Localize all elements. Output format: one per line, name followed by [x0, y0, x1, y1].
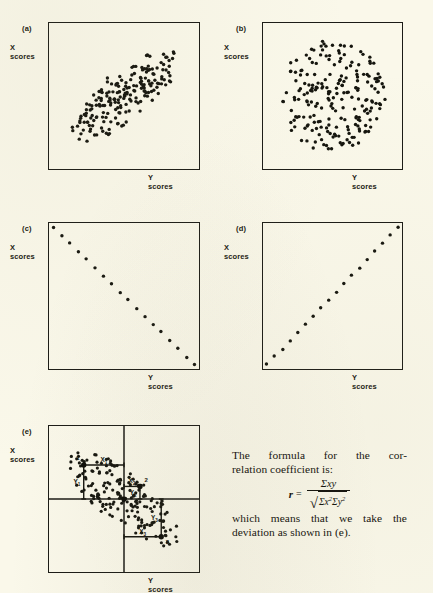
data-point: [149, 507, 152, 510]
data-point: [108, 132, 111, 135]
scatter-plot: 1X1Y12X2Y23X3Y3: [48, 425, 200, 573]
data-point: [356, 75, 359, 78]
data-point: [165, 55, 168, 58]
word: we: [339, 511, 352, 525]
annotated-data-point: [81, 462, 86, 467]
data-point: [328, 73, 331, 76]
data-point: [321, 40, 324, 43]
data-point: [109, 101, 112, 104]
data-point: [77, 250, 80, 253]
data-point: [118, 482, 121, 485]
data-point: [136, 510, 139, 513]
data-point: [153, 79, 156, 82]
data-point: [69, 467, 72, 470]
data-point: [99, 99, 102, 102]
data-point: [129, 99, 132, 102]
data-point: [383, 98, 386, 101]
data-point: [95, 461, 98, 464]
data-point: [95, 116, 98, 119]
data-point: [292, 119, 295, 122]
data-point: [79, 132, 82, 135]
data-point: [168, 79, 171, 82]
data-point: [373, 87, 376, 90]
data-point: [150, 90, 153, 93]
data-point: [310, 89, 313, 92]
data-point: [359, 50, 362, 53]
panel-tag: (d): [236, 224, 246, 233]
data-point: [125, 92, 128, 95]
data-point: [149, 84, 152, 87]
data-point: [311, 129, 314, 132]
data-point: [306, 73, 309, 76]
data-point: [147, 91, 150, 94]
data-point: [338, 51, 341, 54]
data-point: [71, 126, 74, 129]
data-point: [337, 82, 340, 85]
data-point: [108, 98, 111, 101]
data-point: [375, 77, 378, 80]
denominator-term-a: Σx: [319, 497, 329, 507]
data-point: [330, 147, 333, 150]
word: take: [363, 511, 382, 525]
data-point: [145, 505, 148, 508]
data-point: [103, 490, 106, 493]
data-point: [108, 482, 111, 485]
data-point: [60, 234, 63, 237]
data-point: [302, 115, 305, 118]
data-point: [308, 115, 311, 118]
scanned-page: (a)X scoresY scores(b)X scoresY scores(c…: [0, 0, 433, 593]
data-point: [265, 362, 268, 365]
data-point: [143, 315, 146, 318]
data-point: [281, 348, 284, 351]
data-point: [353, 107, 356, 110]
data-point: [68, 241, 71, 244]
data-point: [327, 92, 330, 95]
data-point: [137, 516, 140, 519]
y-axis-label: X scores: [10, 44, 35, 61]
data-point: [382, 85, 385, 88]
data-point: [90, 484, 93, 487]
data-point-group: [71, 50, 176, 143]
data-point: [335, 87, 338, 90]
y-axis-label: X scores: [224, 244, 249, 261]
data-point: [138, 500, 141, 503]
data-point: [305, 139, 308, 142]
data-point: [368, 118, 371, 121]
data-point: [134, 500, 137, 503]
data-point: [113, 97, 116, 100]
data-point: [91, 470, 94, 473]
data-point: [350, 96, 353, 99]
data-point: [119, 106, 122, 109]
x-axis-label: Y scores: [352, 374, 377, 391]
data-point: [124, 521, 127, 524]
data-point: [318, 133, 321, 136]
data-point: [339, 44, 342, 47]
data-point: [311, 314, 314, 317]
data-point: [105, 132, 108, 135]
data-point: [125, 509, 128, 512]
data-point: [294, 71, 297, 74]
data-point: [155, 66, 158, 69]
data-point: [303, 93, 306, 96]
x-axis-label: Y scores: [352, 174, 377, 191]
word: formula: [269, 448, 305, 462]
data-point: [331, 135, 334, 138]
panel-tag: (c): [22, 224, 32, 233]
data-point: [340, 74, 343, 77]
data-point: [327, 117, 330, 120]
data-point: [350, 45, 353, 48]
scatter-plot: [262, 22, 403, 170]
data-point: [147, 64, 150, 67]
data-point: [134, 96, 137, 99]
data-point: [171, 57, 174, 60]
data-point: [355, 69, 358, 72]
data-point: [364, 124, 367, 127]
data-point: [91, 114, 94, 117]
data-point: [325, 126, 328, 129]
data-point: [107, 128, 110, 131]
data-point: [372, 61, 375, 64]
data-point: [109, 120, 112, 123]
data-point: [366, 258, 369, 261]
data-point: [300, 139, 303, 142]
data-point: [140, 87, 143, 90]
